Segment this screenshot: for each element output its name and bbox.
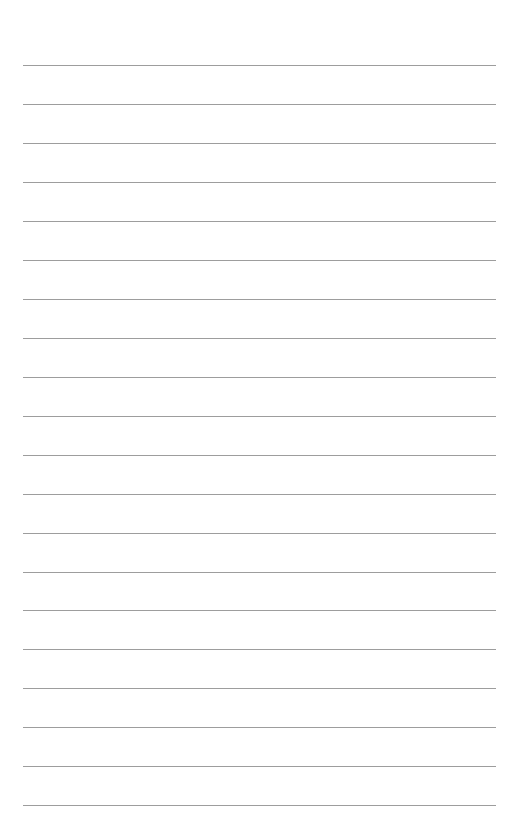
ruled-line: [23, 455, 496, 456]
ruled-line: [23, 143, 496, 144]
ruled-line: [23, 221, 496, 222]
ruled-line: [23, 610, 496, 611]
ruled-line: [23, 299, 496, 300]
ruled-line: [23, 766, 496, 767]
ruled-line: [23, 182, 496, 183]
ruled-line: [23, 104, 496, 105]
lined-paper-page: [0, 0, 516, 836]
ruled-line: [23, 494, 496, 495]
ruled-line: [23, 805, 496, 806]
ruled-line: [23, 688, 496, 689]
ruled-line: [23, 338, 496, 339]
ruled-line: [23, 572, 496, 573]
ruled-line: [23, 727, 496, 728]
ruled-line: [23, 65, 496, 66]
ruled-line: [23, 377, 496, 378]
ruled-line: [23, 260, 496, 261]
ruled-line: [23, 416, 496, 417]
ruled-line: [23, 649, 496, 650]
ruled-line: [23, 533, 496, 534]
